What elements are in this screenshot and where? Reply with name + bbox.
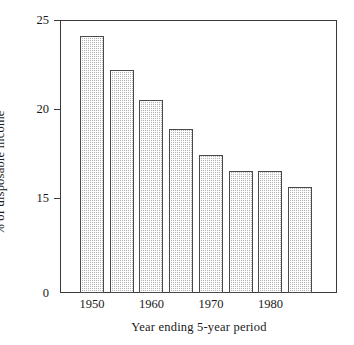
x-axis-tick-label: 1970 [181, 297, 241, 312]
y-axis-title-text: % of disposable income [0, 110, 60, 234]
bar [169, 129, 193, 293]
bar [110, 70, 134, 293]
x-axis-tick-label: 1980 [240, 297, 300, 312]
bar [80, 36, 104, 293]
bar-chart-figure: % of disposable income 0152025 195019601… [0, 0, 354, 345]
bar [139, 100, 163, 293]
y-axis-tick-mark [54, 20, 61, 21]
bar [229, 171, 253, 293]
x-axis-tick-label: 1950 [62, 297, 122, 312]
y-axis-tick-label: 15 [0, 191, 60, 205]
y-axis-tick-label: 20 [0, 102, 60, 116]
x-axis-title: Year ending 5-year period [60, 320, 338, 335]
bar [258, 171, 282, 293]
y-axis-tick-label: 0 [0, 286, 60, 300]
y-axis-tick-label: 25 [0, 13, 60, 27]
bar [199, 155, 223, 293]
x-axis-tick-label: 1960 [121, 297, 181, 312]
y-axis-tick-mark [54, 109, 61, 110]
y-axis-tick-text: 0 [43, 286, 60, 301]
y-axis-tick-mark [54, 198, 61, 199]
bar [288, 187, 312, 293]
